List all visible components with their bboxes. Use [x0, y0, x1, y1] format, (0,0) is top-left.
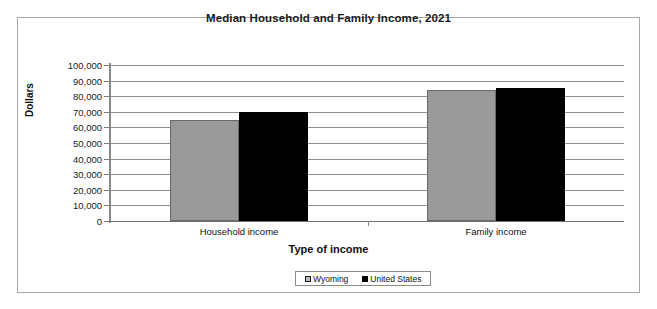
- legend-swatch-icon: [362, 276, 368, 282]
- y-axis-tick-label: 60,000: [46, 122, 102, 133]
- chart-legend: WyomingUnited States: [295, 271, 431, 286]
- bar-wyoming-household-income: [170, 120, 239, 221]
- bar-wyoming-family-income: [427, 90, 496, 221]
- y-axis-tick-label: 30,000: [46, 169, 102, 180]
- y-axis-tick: [104, 112, 110, 113]
- y-axis-tick-label: 90,000: [46, 76, 102, 87]
- y-axis-tick: [104, 96, 110, 97]
- bars-layer: [111, 65, 624, 221]
- y-axis-tick: [104, 143, 110, 144]
- x-axis-category-label: Household income: [200, 226, 279, 237]
- bar-united-states-family-income: [496, 88, 565, 221]
- y-axis-tick-label: 100,000: [46, 60, 102, 71]
- x-axis-category-label: Family income: [465, 226, 526, 237]
- legend-label: Wyoming: [313, 274, 348, 284]
- legend-label: United States: [370, 274, 421, 284]
- legend-swatch-icon: [305, 276, 311, 282]
- y-axis-tick: [104, 174, 110, 175]
- y-axis-tick-label: 50,000: [46, 138, 102, 149]
- legend-item-wyoming: Wyoming: [305, 274, 348, 284]
- y-axis-tick: [104, 221, 110, 222]
- y-axis-tick: [104, 205, 110, 206]
- y-axis-tick: [104, 81, 110, 82]
- y-axis-title: Dollars: [24, 83, 35, 117]
- y-axis-tick-label: 0: [46, 216, 102, 227]
- y-axis-tick-labels: 100,00090,00080,00070,00060,00050,00040,…: [44, 0, 102, 309]
- y-axis-tick: [104, 159, 110, 160]
- y-axis-tick-label: 70,000: [46, 107, 102, 118]
- x-axis-category-separator-tick: [368, 221, 369, 226]
- y-axis-tick: [104, 65, 110, 66]
- y-axis-tick-label: 40,000: [46, 154, 102, 165]
- y-axis-tick: [104, 127, 110, 128]
- y-axis-tick-label: 20,000: [46, 185, 102, 196]
- y-axis-tick: [104, 190, 110, 191]
- bar-united-states-household-income: [239, 112, 308, 221]
- x-axis-title: Type of income: [0, 243, 657, 255]
- y-axis-tick-label: 10,000: [46, 200, 102, 211]
- y-axis-tick-label: 80,000: [46, 91, 102, 102]
- legend-item-united-states: United States: [362, 274, 421, 284]
